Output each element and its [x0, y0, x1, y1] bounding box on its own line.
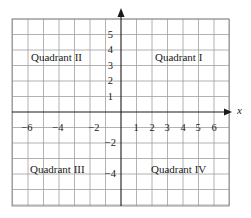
quadrant-label-i: Quadrant I: [155, 52, 202, 63]
y-tick-label: −2: [105, 138, 116, 149]
y-tick-label: 1: [108, 92, 113, 103]
quadrant-label-iv: Quadrant IV: [151, 164, 206, 175]
x-tick-label: 3: [164, 123, 169, 134]
x-tick-label: 4: [180, 123, 185, 134]
x-tick-label: −2: [88, 123, 99, 134]
y-axis-arrow-icon: [118, 8, 125, 17]
x-tick-label: 2: [149, 123, 154, 134]
x-tick-label: 6: [211, 123, 216, 134]
x-tick-label: 1: [133, 123, 138, 134]
coordinate-plane: [0, 0, 251, 218]
quadrant-label-ii: Quadrant II: [31, 52, 82, 63]
y-tick-label: 3: [108, 61, 113, 72]
y-tick-label: 2: [108, 76, 113, 87]
y-tick-label: 4: [108, 45, 113, 56]
y-tick-label: 5: [108, 30, 113, 41]
x-tick-label: −4: [52, 123, 63, 134]
x-axis-label: x: [237, 105, 242, 116]
x-tick-label: −6: [21, 123, 32, 134]
quadrant-label-iii: Quadrant III: [30, 164, 85, 175]
y-tick-label: −4: [105, 169, 116, 180]
x-axis-arrow-icon: [224, 109, 232, 116]
x-tick-label: 5: [195, 123, 200, 134]
